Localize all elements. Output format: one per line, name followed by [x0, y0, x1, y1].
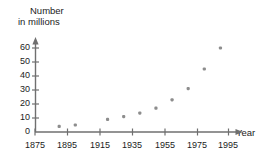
data-point — [106, 118, 109, 121]
data-point — [58, 125, 61, 128]
data-point-group — [58, 46, 222, 128]
x-axis — [35, 129, 243, 135]
plot-area — [0, 0, 270, 160]
data-point — [170, 98, 173, 101]
data-point — [154, 107, 157, 110]
data-point — [219, 46, 222, 49]
data-point — [138, 112, 141, 115]
data-point — [74, 123, 77, 126]
data-point — [187, 87, 190, 90]
data-point — [203, 67, 206, 70]
data-point — [122, 115, 125, 118]
scatter-chart: Number in millions 60 50 40 30 20 10 0 1… — [0, 0, 270, 160]
